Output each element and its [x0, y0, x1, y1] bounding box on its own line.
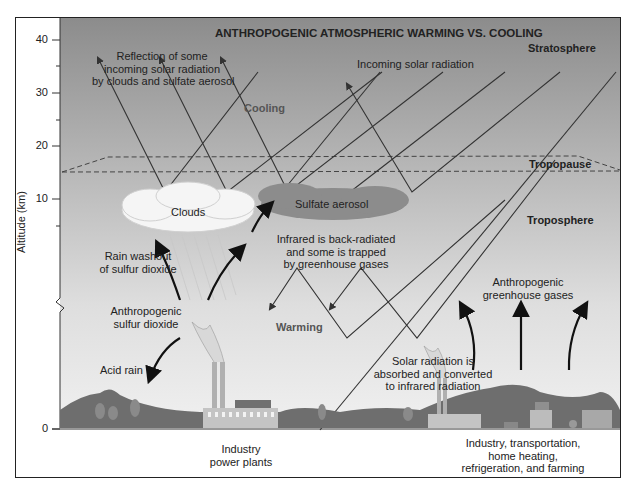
label-sulfate-aerosol: Sulfate aerosol: [295, 198, 368, 211]
label-rain-washout: Rain washout of sulfur dioxide: [83, 250, 193, 275]
label-anthro-so2-line2: sulfur dioxide: [106, 318, 186, 331]
label-stratosphere: Stratosphere: [528, 42, 596, 55]
label-incoming-solar: Incoming solar radiation: [357, 58, 474, 71]
label-reflection: Reflection of some incoming solar radiat…: [92, 50, 232, 88]
source-left: Industry power plants: [206, 443, 276, 468]
label-anthro-ghg: Anthropogenic greenhouse gases: [478, 276, 578, 301]
y-tick-10: 10: [26, 192, 48, 204]
label-infrared: Infrared is back-radiated and some is tr…: [256, 233, 416, 271]
label-anthro-ghg-line2: greenhouse gases: [478, 289, 578, 302]
label-clouds: Clouds: [171, 206, 205, 219]
label-infrared-line3: by greenhouse gases: [256, 258, 416, 271]
y-tick-30: 30: [26, 86, 48, 98]
label-reflection-line2: incoming solar radiation: [92, 63, 232, 76]
label-solar-absorbed-line3: to infrared radiation: [373, 380, 493, 393]
source-left-line1: Industry: [206, 443, 276, 456]
y-tick-40: 40: [26, 33, 48, 45]
label-acid-rain: Acid rain: [100, 364, 143, 377]
label-solar-absorbed: Solar radiation is absorbed and converte…: [373, 355, 493, 393]
source-right-line3: refrigeration, and farming: [458, 462, 588, 475]
label-infrared-line2: and some is trapped: [256, 246, 416, 259]
label-anthro-so2-line1: Anthropogenic: [106, 305, 186, 318]
label-anthro-ghg-line1: Anthropogenic: [478, 276, 578, 289]
label-rain-washout-line1: Rain washout: [83, 250, 193, 263]
source-left-line2: power plants: [206, 456, 276, 469]
diagram-title: ANTHROPOGENIC ATMOSPHERIC WARMING VS. CO…: [215, 27, 543, 40]
source-right-line2: home heating,: [458, 450, 588, 463]
y-tick-0: 0: [26, 422, 48, 434]
source-right-line1: Industry, transportation,: [458, 437, 588, 450]
label-reflection-line1: Reflection of some: [92, 50, 232, 63]
y-axis-label: Altitude (km): [15, 191, 27, 253]
label-cooling: Cooling: [244, 102, 285, 115]
label-rain-washout-line2: of sulfur dioxide: [83, 263, 193, 276]
label-tropopause: Tropopause: [529, 158, 591, 171]
y-tick-20: 20: [26, 139, 48, 151]
label-anthro-so2: Anthropogenic sulfur dioxide: [106, 305, 186, 330]
label-solar-absorbed-line1: Solar radiation is: [373, 355, 493, 368]
label-reflection-line3: by clouds and sulfate aerosol: [92, 75, 232, 88]
label-troposphere: Troposphere: [527, 214, 594, 227]
label-warming: Warming: [276, 321, 323, 334]
label-infrared-line1: Infrared is back-radiated: [256, 233, 416, 246]
source-right: Industry, transportation, home heating, …: [458, 437, 588, 475]
label-solar-absorbed-line2: absorbed and converted: [373, 368, 493, 381]
